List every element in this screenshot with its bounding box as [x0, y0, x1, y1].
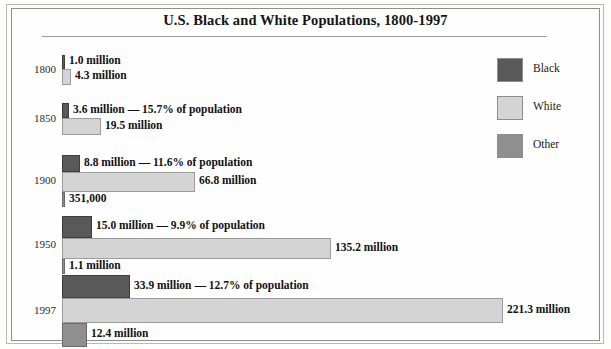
year-label-1900: 1900 — [16, 174, 56, 186]
bar-1850-white — [62, 118, 101, 135]
bar-label-1900-black: 8.8 million — 11.6% of population — [84, 156, 252, 168]
year-label-1850: 1850 — [16, 112, 56, 124]
bar-1997-white — [62, 298, 503, 323]
bar-1800-black — [62, 55, 65, 69]
bar-label-1900-white: 66.8 million — [199, 174, 257, 186]
year-label-1997: 1997 — [16, 304, 56, 316]
bar-label-1997-black: 33.9 million — 12.7% of population — [134, 279, 309, 291]
legend-swatch-white-icon — [497, 96, 523, 120]
legend-swatch-black-icon — [497, 58, 523, 82]
bar-label-1850-black: 3.6 million — 15.7% of population — [73, 103, 242, 115]
bar-label-1950-black: 15.0 million — 9.9% of population — [96, 219, 265, 231]
bar-1900-black — [62, 155, 80, 172]
year-label-1950: 1950 — [16, 238, 56, 250]
year-label-1800: 1800 — [16, 63, 56, 75]
legend-label-black: Black — [533, 62, 560, 74]
bar-1900-other — [62, 192, 65, 207]
legend-swatch-other-icon — [497, 134, 523, 158]
bar-label-1800-white: 4.3 million — [75, 69, 127, 81]
bar-label-1850-white: 19.5 million — [105, 119, 163, 131]
legend-label-other: Other — [533, 138, 559, 150]
bar-label-1997-other: 12.4 million — [91, 327, 149, 339]
bar-label-1950-other: 1.1 million — [69, 259, 121, 271]
bar-label-1800-black: 1.0 million — [69, 54, 121, 66]
bar-chart-plot-area: 18001.0 million4.3 million18503.6 millio… — [0, 0, 611, 349]
legend-label-white: White — [533, 100, 561, 112]
bar-label-1997-white: 221.3 million — [507, 303, 570, 315]
bar-1950-white — [62, 238, 331, 259]
bar-1997-black — [62, 275, 130, 298]
bar-1997-other — [62, 323, 87, 347]
chart-page: U.S. Black and White Populations, 1800-1… — [0, 0, 611, 349]
bar-label-1900-other: 351,000 — [69, 192, 106, 204]
bar-1800-white — [62, 69, 71, 85]
bar-1850-black — [62, 103, 69, 118]
bar-1900-white — [62, 172, 195, 192]
bar-1950-other — [62, 259, 65, 274]
bar-1950-black — [62, 216, 92, 238]
bar-label-1950-white: 135.2 million — [335, 241, 398, 253]
